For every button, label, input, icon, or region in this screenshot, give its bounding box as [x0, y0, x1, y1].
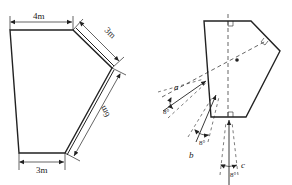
dimension-lower-right: 6m: [65, 68, 126, 161]
dimension-bottom-label: 3m: [36, 165, 48, 175]
left-figure: 4m 3m 6m 3m: [10, 11, 126, 175]
ray-b: b 8°: [188, 95, 219, 160]
dimension-lower-right-label: 6m: [97, 104, 111, 119]
right-figure: a 8° b 8° c 8°: [158, 14, 280, 185]
ray-c: c 8°: [220, 120, 245, 185]
right-polygon: [204, 21, 280, 117]
dimension-bottom: 3m: [19, 153, 65, 175]
ray-a-angle: 8°: [163, 108, 170, 116]
dimension-upper-right-label: 3m: [103, 25, 118, 40]
ray-a: a 8°: [158, 79, 206, 118]
dimension-upper-right: 3m: [73, 19, 124, 68]
diagram-canvas: 4m 3m 6m 3m: [0, 0, 292, 185]
right-angle-mark-bottom: [228, 112, 233, 117]
ray-a-label: a: [174, 82, 179, 92]
dimension-top: 4m: [10, 11, 73, 30]
ray-b-label: b: [189, 150, 194, 160]
right-angle-mark-top: [228, 21, 233, 26]
center-dot: [235, 58, 239, 62]
dimension-top-label: 4m: [33, 11, 45, 21]
ray-c-angle: 8°: [230, 171, 237, 179]
right-angle-mark-diagonal: [261, 38, 268, 45]
ray-c-label: c: [241, 160, 245, 170]
ray-b-angle: 8°: [199, 139, 206, 147]
